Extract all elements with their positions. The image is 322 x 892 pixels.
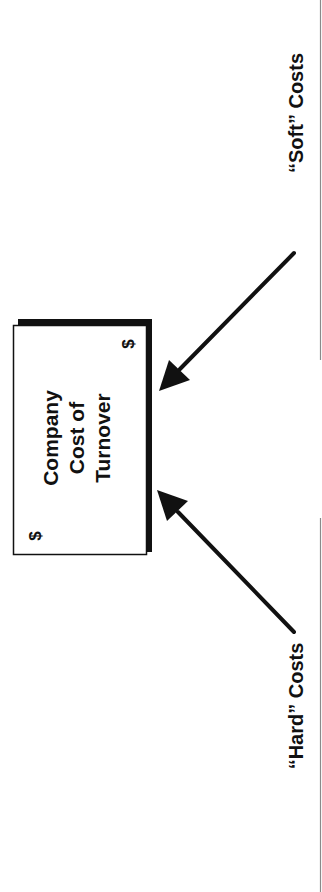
soft-costs-arrow [159, 253, 294, 391]
dollar-icon-bottom: $ [26, 531, 45, 541]
dollar-icon-top: $ [119, 339, 138, 349]
box-line-company: Company [39, 390, 62, 486]
center-box: Company Cost of Turnover $ $ [14, 326, 147, 555]
hard-costs-arrow [157, 490, 294, 632]
soft-costs-label: “Soft” Costs [285, 53, 307, 173]
box-line-cost-of: Cost of [65, 401, 88, 474]
box-line-turnover: Turnover [91, 393, 114, 482]
cost-of-turnover-diagram: Company Cost of Turnover $ $ “Soft” Cost… [0, 0, 322, 892]
hard-costs-label: “Hard” Costs [285, 643, 307, 770]
